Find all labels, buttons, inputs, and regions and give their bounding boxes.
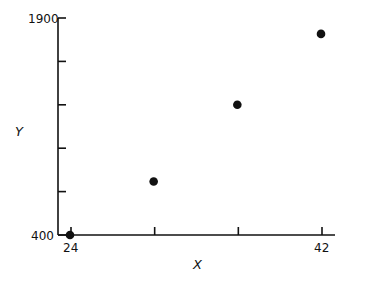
x-axis-title: X: [193, 258, 202, 271]
y-min-label: 400: [31, 230, 54, 242]
data-point: [317, 30, 326, 39]
x-max-label: 42: [314, 242, 329, 254]
scatter-plot: [0, 0, 378, 282]
x-min-label: 24: [63, 242, 78, 254]
axes: [58, 18, 335, 235]
data-point: [66, 231, 75, 240]
data-point: [149, 177, 158, 186]
data-points: [66, 30, 326, 240]
y-axis-title: Y: [15, 125, 23, 138]
data-point: [233, 101, 242, 110]
y-max-label: 1900: [28, 13, 59, 25]
